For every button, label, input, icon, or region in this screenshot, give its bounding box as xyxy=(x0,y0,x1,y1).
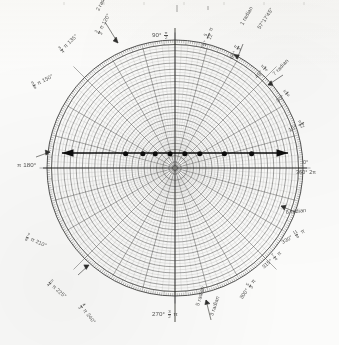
label-75-pi: π xyxy=(207,26,214,32)
label-360-text: 360° xyxy=(296,169,308,175)
label-90-den: 2 xyxy=(164,35,168,40)
label-90-fraction: π 2 xyxy=(164,31,168,40)
label-90-degrees: 90° π 2 xyxy=(152,31,169,40)
polar-grid-svg xyxy=(0,0,339,345)
label-270-fraction: 3 2 xyxy=(168,310,172,319)
label-2pi-text: 2π xyxy=(309,169,316,175)
label-210-den: 6 xyxy=(24,236,29,242)
polar-graph-figure: 0° 360° 2π 15° π 12 30° π 6 45° π 4 60° … xyxy=(0,0,339,345)
label-15-deg-text: 15° xyxy=(287,124,297,133)
label-180-pi: π xyxy=(17,161,21,168)
label-270-deg-text: 270° xyxy=(152,310,165,317)
label-270-degrees: 270° 3 2 π xyxy=(152,310,178,319)
label-75-deg-text: 75° xyxy=(200,39,209,49)
label-270-den: 2 xyxy=(168,314,172,319)
label-360-degrees: 360° 2π xyxy=(296,170,316,176)
label-180-deg-text: 180° xyxy=(23,161,36,168)
label-90-deg-text: 90° xyxy=(152,31,162,38)
label-270-pi: π xyxy=(174,310,178,317)
paper-background xyxy=(0,0,339,345)
label-180-degrees: π 180° xyxy=(17,162,36,169)
label-0-degrees: 0° xyxy=(303,160,308,166)
label-75-fraction: 5 12 xyxy=(203,31,214,40)
